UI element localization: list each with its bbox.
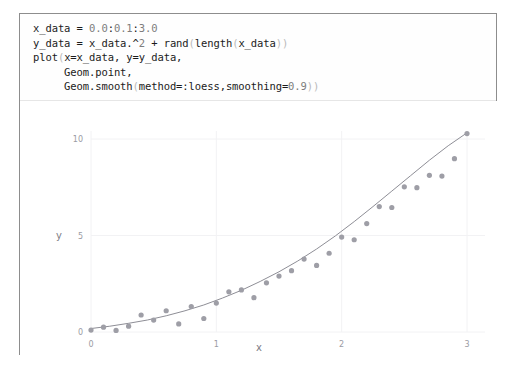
plot-panel: 0510 0123 x y: [20, 101, 498, 356]
data-point: [226, 289, 231, 294]
data-point: [464, 131, 469, 136]
y-tick-labels: 0510: [73, 135, 83, 337]
loess-smooth-curve: [91, 133, 467, 329]
data-point: [239, 287, 244, 292]
y-axis-label: y: [56, 230, 62, 241]
data-point: [289, 268, 294, 273]
data-point: [339, 234, 344, 239]
code-line-5: Geom.smooth(method=:loess,smoothing=0.9)…: [33, 79, 496, 94]
y-tick-10: 10: [73, 135, 83, 144]
data-point: [251, 295, 256, 300]
data-point: [126, 324, 131, 329]
data-point: [301, 256, 306, 261]
data-point: [314, 263, 319, 268]
data-point: [377, 204, 382, 209]
x-tick-0: 0: [88, 340, 93, 349]
gridlines: [91, 131, 485, 332]
data-point: [113, 328, 118, 333]
x-tick-2: 2: [339, 340, 344, 349]
scatter-plot-svg: 0510 0123 x y: [20, 101, 498, 356]
y-tick-5: 5: [78, 232, 83, 241]
x-tick-3: 3: [464, 340, 469, 349]
data-point: [402, 184, 407, 189]
data-point: [364, 221, 369, 226]
x-tick-1: 1: [214, 340, 219, 349]
data-point: [352, 237, 357, 242]
data-point: [139, 312, 144, 317]
data-point: [276, 273, 281, 278]
code-line-1: x_data = 0.0:0.1:3.0: [33, 21, 496, 36]
screenshot-root: x_data = 0.0:0.1:3.0y_data = x_data.^2 +…: [0, 0, 515, 382]
data-point: [389, 205, 394, 210]
data-point: [452, 156, 457, 161]
data-point: [264, 280, 269, 285]
code-block: x_data = 0.0:0.1:3.0y_data = x_data.^2 +…: [20, 14, 496, 101]
data-point: [176, 321, 181, 326]
data-point: [439, 173, 444, 178]
data-point: [101, 325, 106, 330]
data-point: [201, 316, 206, 321]
x-axis-label: x: [256, 342, 262, 353]
data-point: [151, 317, 156, 322]
code-line-2: y_data = x_data.^2 + rand(length(x_data)…: [33, 36, 496, 51]
figure-card: x_data = 0.0:0.1:3.0y_data = x_data.^2 +…: [19, 13, 497, 355]
x-tick-labels: 0123: [88, 340, 469, 349]
code-line-4: Geom.point,: [33, 65, 496, 80]
code-source-text: x_data = 0.0:0.1:3.0y_data = x_data.^2 +…: [33, 21, 496, 94]
data-point: [214, 300, 219, 305]
data-point: [164, 308, 169, 313]
data-point: [327, 251, 332, 256]
data-point: [88, 327, 93, 332]
code-line-3: plot(x=x_data, y=y_data,: [33, 50, 496, 65]
data-point: [414, 185, 419, 190]
data-point: [189, 304, 194, 309]
data-points: [88, 131, 469, 333]
y-tick-0: 0: [78, 328, 83, 337]
data-point: [427, 173, 432, 178]
